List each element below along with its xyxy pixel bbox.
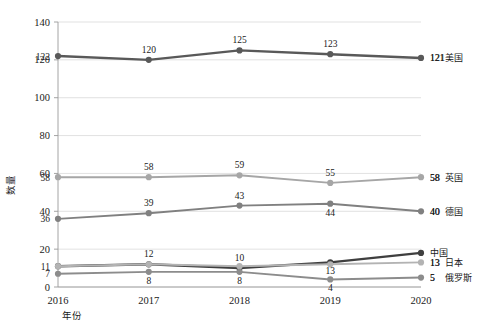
data-point [327, 180, 333, 186]
data-value-label: 36 [41, 214, 51, 224]
data-value-label: 43 [235, 191, 245, 201]
series-end-value: 5 [430, 272, 435, 283]
x-tick-label: 2017 [138, 295, 159, 306]
series-end-value: 58 [430, 172, 440, 183]
data-value-label: 7 [45, 269, 50, 279]
y-tick-label: 140 [34, 17, 50, 28]
data-point [327, 276, 333, 282]
data-value-label: 59 [235, 160, 245, 170]
data-value-label: 39 [144, 198, 154, 208]
data-value-label: 125 [232, 35, 247, 45]
data-point [236, 269, 242, 275]
legend-label-英国[interactable]: 英国 [445, 172, 463, 183]
data-value-label: 58 [144, 162, 154, 172]
data-value-label: 120 [142, 45, 157, 55]
x-tick-label: 2016 [48, 295, 69, 306]
data-point [236, 263, 242, 269]
data-point [55, 53, 61, 59]
legend-label-德国[interactable]: 德国 [445, 206, 463, 217]
data-point [327, 51, 333, 57]
data-point [55, 271, 61, 277]
data-point [55, 263, 61, 269]
data-value-label: 58 [41, 173, 51, 183]
data-value-label: 13 [326, 266, 336, 276]
data-point [418, 250, 424, 256]
data-point [236, 203, 242, 209]
data-point [418, 208, 424, 214]
series-end-value: 121 [430, 52, 445, 63]
data-point [146, 269, 152, 275]
x-tick-label: 2020 [411, 295, 432, 306]
data-point [418, 174, 424, 180]
data-value-label: 12 [144, 249, 154, 259]
y-tick-label: 20 [40, 244, 51, 255]
data-value-label: 123 [323, 39, 338, 49]
data-point [236, 172, 242, 178]
data-point [55, 216, 61, 222]
legend-label-美国[interactable]: 美国 [445, 52, 463, 63]
line-chart: 020406080100120140 20162017201820192020 … [0, 0, 485, 327]
series-end-value: 13 [430, 257, 440, 268]
y-tick-label: 100 [34, 92, 50, 103]
data-value-label: 10 [235, 253, 245, 263]
x-axis-title: 年份 [62, 310, 82, 321]
chart-canvas: 020406080100120140 20162017201820192020 … [0, 0, 485, 327]
data-point [146, 57, 152, 63]
data-value-label: 122 [36, 52, 51, 62]
data-point [236, 47, 242, 53]
x-tick-label: 2019 [320, 295, 341, 306]
data-value-label: 8 [237, 276, 242, 286]
data-point [418, 259, 424, 265]
data-point [146, 261, 152, 267]
series-end-value: 40 [430, 206, 440, 217]
data-value-label: 44 [326, 208, 336, 218]
data-point [146, 210, 152, 216]
y-axis-title: 数量 [5, 175, 16, 195]
y-tick-label: 0 [45, 282, 50, 293]
y-tick-label: 80 [40, 130, 51, 141]
data-point [418, 55, 424, 61]
data-point [146, 174, 152, 180]
x-tick-label: 2018 [229, 295, 250, 306]
legend-label-日本[interactable]: 日本 [445, 257, 463, 268]
data-point [327, 201, 333, 207]
data-point [55, 174, 61, 180]
data-value-label: 8 [146, 276, 151, 286]
data-value-label: 4 [328, 283, 333, 293]
legend-label-俄罗斯[interactable]: 俄罗斯 [445, 272, 472, 283]
data-point [418, 274, 424, 280]
data-value-label: 55 [326, 168, 336, 178]
